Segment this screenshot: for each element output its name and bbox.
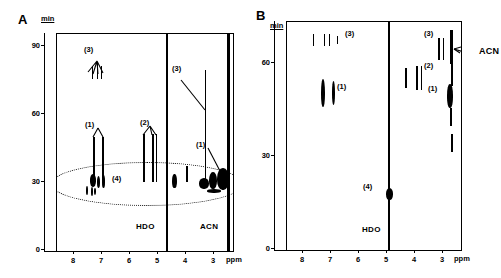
panel-a-xtick-mark-8 [73,251,74,254]
panel-a-ytick-mark-60 [41,113,45,114]
panel-b-y-unit-label: min [270,21,283,30]
panel-a-x-unit-label: ppm [226,255,242,264]
panel-a-ytick-mark-90 [41,45,45,46]
panel-a-xtick-7: 7 [99,256,103,265]
panel-b-xtick-7: 7 [328,255,332,264]
panel-b-xtick-mark-4 [414,250,415,253]
panel-a-xtick-8: 8 [71,256,75,265]
panel-a-xtick-mark-6 [129,251,130,254]
panel-a-xtick-mark-7 [101,251,102,254]
panel-b-annotation-acn: ACN [479,46,499,56]
panel-b: B min 0 30 60 [250,0,501,278]
panel-a-annotation-3-right: (3) [172,64,181,73]
panel-a-y-axis [44,33,45,251]
panel-a-leader-lines [57,34,234,251]
panel-a-xtick-mark-5 [157,251,158,254]
panel-a-xtick-mark-4 [185,251,186,254]
panel-a-solvent-label-acn: ACN [200,222,218,231]
panel-b-xtick-3: 3 [440,255,444,264]
panel-b-plot-area [286,21,462,250]
panel-b-annotation-3-right: (3) [424,29,433,38]
panel-b-xtick-mark-7 [330,250,331,253]
panel-b-ytick-mark-60 [271,62,275,63]
nmr-figure: A min 0 30 60 90 [0,0,501,278]
panel-b-xtick-mark-5 [386,250,387,253]
panel-a-ytick-60: 60 [26,109,40,118]
panel-b-ytick-60: 60 [256,58,270,67]
panel-b-y-axis [274,21,275,250]
panel-b-ytick-0: 0 [256,244,270,253]
panel-a: A min 0 30 60 90 [0,0,250,278]
panel-a-solvent-label-hdo: HDO [136,222,155,231]
panel-b-xtick-5: 5 [384,255,388,264]
panel-a-xtick-3: 3 [211,256,215,265]
panel-a-xtick-5: 5 [155,256,159,265]
panel-b-annotation-4: (4) [363,182,372,191]
panel-b-xtick-8: 8 [300,255,304,264]
panel-b-annotation-3-left: (3) [345,29,354,38]
panel-a-xtick-4: 4 [183,256,187,265]
panel-a-ytick-30: 30 [26,177,40,186]
panel-b-ytick-30: 30 [256,151,270,160]
panel-a-annotation-4: (4) [112,174,121,183]
panel-b-solvent-label-hdo: HDO [362,225,381,234]
panel-a-annotation-1-left: (1) [85,120,94,129]
panel-b-xtick-mark-8 [302,250,303,253]
panel-b-x-unit-label: ppm [454,254,470,263]
panel-b-ytick-mark-0 [271,248,275,249]
panel-b-xtick-4: 4 [412,255,416,264]
panel-a-annotation-3-left: (3) [84,45,93,54]
panel-b-leader-lines [287,22,462,250]
panel-b-annotation-1-left: (1) [337,82,346,91]
panel-b-xtick-mark-6 [358,250,359,253]
panel-a-annotation-2: (2) [140,118,149,127]
panel-b-letter: B [256,8,265,23]
panel-a-letter: A [18,12,27,27]
panel-a-annotation-1-right: (1) [196,140,205,149]
panel-b-annotation-2: (2) [424,61,433,70]
panel-a-ytick-mark-30 [41,181,45,182]
panel-a-xtick-mark-3 [213,251,214,254]
panel-a-highlight-ellipse [56,162,234,206]
panel-b-annotation-1-right: (1) [428,84,437,93]
panel-a-xtick-6: 6 [127,256,131,265]
panel-a-plot-area [56,33,234,251]
panel-b-xtick-6: 6 [356,255,360,264]
panel-a-ytick-90: 90 [26,41,40,50]
panel-b-ytick-mark-30 [271,155,275,156]
panel-a-ytick-0: 0 [26,245,40,254]
panel-b-xtick-mark-3 [442,250,443,253]
panel-a-y-unit-label: min [41,14,54,23]
panel-a-ytick-mark-0 [41,249,45,250]
